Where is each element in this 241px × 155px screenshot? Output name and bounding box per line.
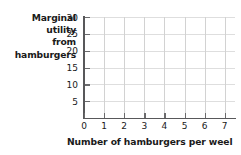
- x-tick-label-4: 4: [154, 121, 174, 131]
- x-tick-2: [124, 113, 125, 118]
- gridline-vertical-2: [124, 17, 125, 118]
- y-tick-label-20: 20: [54, 46, 78, 56]
- y-tick-30: [85, 17, 90, 18]
- x-tick-7: [225, 113, 226, 118]
- y-tick-label-30: 30: [54, 13, 78, 23]
- gridline-horizontal-20: [84, 51, 235, 52]
- y-tick-label-15: 15: [54, 63, 78, 73]
- y-tick-label-25: 25: [54, 29, 78, 39]
- gridline-horizontal-5: [84, 101, 235, 102]
- y-tick-20: [85, 51, 90, 52]
- x-tick-label-2: 2: [114, 121, 134, 131]
- gridline-horizontal-15: [84, 68, 235, 69]
- gridline-horizontal-30: [84, 17, 235, 18]
- gridline-horizontal-25: [84, 34, 235, 35]
- gridline-vertical-4: [164, 17, 165, 118]
- x-tick-label-5: 5: [175, 121, 195, 131]
- y-tick-10: [85, 84, 90, 85]
- gridline-vertical-7: [225, 17, 226, 118]
- x-tick-label-1: 1: [94, 121, 114, 131]
- x-tick-1: [104, 113, 105, 118]
- y-tick-15: [85, 68, 90, 69]
- x-tick-3: [144, 113, 145, 118]
- x-tick-label-0: 0: [74, 121, 94, 131]
- x-tick-4: [164, 113, 165, 118]
- y-tick-5: [85, 101, 90, 102]
- x-tick-0: [84, 113, 85, 118]
- x-tick-label-7: 7: [215, 121, 235, 131]
- gridline-vertical-5: [185, 17, 186, 118]
- x-tick-6: [205, 113, 206, 118]
- x-axis-title: Number of hamburgers per weel: [67, 136, 241, 147]
- x-tick-label-6: 6: [195, 121, 215, 131]
- y-tick-25: [85, 34, 90, 35]
- gridline-vertical-6: [205, 17, 206, 118]
- y-tick-label-10: 10: [54, 80, 78, 90]
- y-tick-label-5: 5: [54, 97, 78, 107]
- x-axis-line: [83, 118, 236, 120]
- gridline-horizontal-10: [84, 84, 235, 85]
- plot-area: [84, 17, 235, 118]
- gridline-vertical-3: [144, 17, 145, 118]
- x-tick-5: [185, 113, 186, 118]
- x-tick-label-3: 3: [134, 121, 154, 131]
- gridline-vertical-1: [104, 17, 105, 118]
- chart-figure: Marginal utility from hamburgers 30 25 2…: [0, 0, 241, 155]
